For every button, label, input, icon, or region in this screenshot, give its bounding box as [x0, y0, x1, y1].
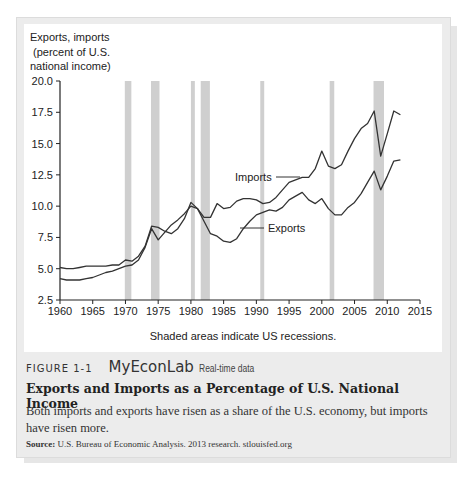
y-tick-label: 5.0 — [38, 263, 53, 275]
brand-subtitle: Real-time data — [199, 363, 254, 374]
x-tick-label: 1975 — [146, 305, 170, 317]
exports-line — [60, 160, 400, 280]
x-tick-label: 1990 — [244, 305, 268, 317]
recession-note: Shaded areas indicate US recessions. — [150, 330, 337, 342]
recession-band — [125, 81, 132, 300]
figure-source: Source: U.S. Bureau of Economic Analysis… — [26, 439, 446, 449]
recession-bands — [125, 81, 384, 300]
brand-logo: MyEconLab — [109, 358, 194, 376]
x-tick-label: 1985 — [211, 305, 235, 317]
recession-band — [201, 81, 210, 300]
recession-band — [260, 81, 264, 300]
y-tick-label: 17.5 — [32, 106, 53, 118]
x-tick-label: 2015 — [408, 305, 432, 317]
y-tick-label: 10.0 — [32, 200, 53, 212]
recession-band — [191, 81, 195, 300]
y-tick-label: 20.0 — [32, 75, 53, 87]
x-tick-label: 2000 — [310, 305, 334, 317]
y-axis-label-line: Exports, imports — [30, 31, 110, 43]
x-tick-label: 1970 — [113, 305, 137, 317]
x-tick-label: 2010 — [375, 305, 399, 317]
data-lines — [60, 111, 400, 280]
source-text: U.S. Bureau of Economic Analysis. 2013 r… — [58, 439, 292, 449]
figure-header: FIGURE 1-1 MyEconLab Real-time data — [26, 358, 446, 376]
y-tick-label: 7.5 — [38, 231, 53, 243]
axes: 2.55.07.510.012.515.017.520.019601965197… — [32, 75, 433, 317]
y-tick-label: 15.0 — [32, 138, 53, 150]
imports-label: Imports — [235, 171, 272, 183]
x-tick-label: 1980 — [179, 305, 203, 317]
exports-label: Exports — [268, 222, 306, 234]
figure-number: FIGURE 1-1 — [26, 363, 93, 374]
line-chart: Exports, imports(percent of U.S.national… — [24, 24, 442, 352]
x-tick-label: 1960 — [48, 305, 72, 317]
x-tick-label: 2005 — [342, 305, 366, 317]
x-tick-label: 1995 — [277, 305, 301, 317]
figure-description: Both imports and exports have risen as a… — [26, 403, 446, 437]
y-axis-label-line: (percent of U.S. — [33, 46, 110, 58]
source-label: Source: — [26, 439, 55, 449]
y-tick-label: 12.5 — [32, 169, 53, 181]
y-axis-label-line: national income) — [30, 60, 111, 72]
imports-line — [60, 111, 400, 269]
recession-band — [330, 81, 335, 300]
recession-band — [151, 81, 160, 300]
x-tick-label: 1965 — [80, 305, 104, 317]
chart-area: Exports, imports(percent of U.S.national… — [24, 24, 442, 352]
y-axis-label: Exports, imports(percent of U.S.national… — [30, 31, 111, 72]
